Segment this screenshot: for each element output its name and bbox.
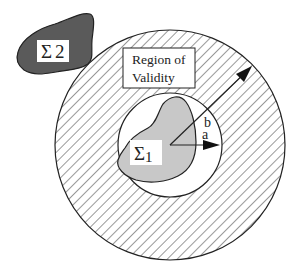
- svg-text:Validity: Validity: [132, 70, 175, 85]
- region-of-validity-diagram: Σ2 Σ1 Region of Validity b a: [0, 0, 299, 270]
- radius-a-label: a: [202, 127, 209, 142]
- region-of-validity-label: Region of Validity: [123, 48, 195, 88]
- svg-text:Region of: Region of: [132, 52, 186, 67]
